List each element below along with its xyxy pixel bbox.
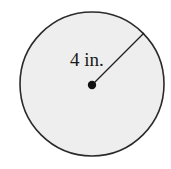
center-point (88, 81, 96, 89)
radius-label: 4 in. (70, 49, 104, 70)
circle-diagram: 4 in. (0, 0, 171, 169)
